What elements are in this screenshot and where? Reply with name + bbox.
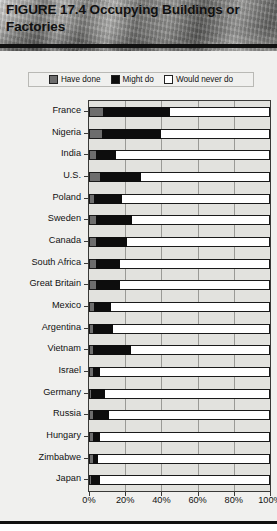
bar-row [89, 404, 270, 426]
x-axis-tick [89, 492, 90, 496]
y-axis-tick [84, 263, 88, 264]
bar-segment-might-do [93, 324, 113, 334]
stacked-bar [89, 389, 270, 399]
bar-segment-have-done [89, 129, 102, 139]
footer-fill [0, 524, 277, 531]
y-axis-label-vietnam: Vietnam [47, 338, 81, 360]
legend-swatch-icon [164, 75, 173, 84]
bar-segment-would-never-do [120, 259, 270, 269]
bar-segment-have-done [89, 150, 96, 160]
stacked-bar [89, 324, 270, 334]
bar-segment-might-do [96, 237, 127, 247]
bar-segment-have-done [89, 172, 100, 182]
y-axis-tick [84, 133, 88, 134]
y-axis-tick [84, 436, 88, 437]
y-axis-tick [84, 371, 88, 372]
stacked-bar [89, 150, 270, 160]
bar-segment-would-never-do [113, 324, 270, 334]
bar-row [89, 296, 270, 318]
bar-row [89, 318, 270, 340]
y-axis-label-mexico: Mexico [52, 295, 81, 317]
plot-area [88, 100, 271, 492]
bar-row [89, 383, 270, 405]
x-axis-tick-label: 20% [116, 495, 134, 505]
stacked-bar [89, 172, 270, 182]
bar-segment-would-never-do [100, 475, 270, 485]
legend-swatch-icon [111, 75, 120, 84]
stacked-bar [89, 454, 270, 464]
bar-row [89, 144, 270, 166]
bar-row [89, 448, 270, 470]
y-axis-label-france: France [52, 100, 81, 122]
bar-row [89, 166, 270, 188]
y-axis-tick [84, 328, 88, 329]
legend-label: Would never do [176, 75, 233, 84]
bar-segment-would-never-do [132, 215, 270, 225]
x-axis-tick-label: 60% [188, 495, 206, 505]
bar-segment-would-never-do [131, 345, 270, 355]
bar-rows [89, 101, 270, 491]
y-axis-tick [84, 154, 88, 155]
bar-row [89, 209, 270, 231]
bar-segment-might-do [96, 150, 116, 160]
bar-segment-might-do [94, 194, 121, 204]
bar-segment-would-never-do [98, 454, 270, 464]
y-axis-label-israel: Israel [59, 360, 81, 382]
bar-segment-might-do [91, 389, 105, 399]
stacked-bar [89, 107, 270, 117]
y-axis-label-zimbabwe: Zimbabwe [39, 447, 81, 469]
bar-segment-might-do [96, 259, 120, 269]
bar-row [89, 274, 270, 296]
x-axis-tick-label: 0% [82, 495, 95, 505]
bar-segment-have-done [89, 259, 96, 269]
bar-row [89, 426, 270, 448]
bar-segment-might-do [93, 410, 109, 420]
bar-segment-would-never-do [170, 107, 270, 117]
y-axis-tick [84, 111, 88, 112]
y-axis-tick [84, 458, 88, 459]
stacked-bar [89, 367, 270, 377]
bar-segment-have-done [89, 107, 103, 117]
bar-row [89, 231, 270, 253]
bar-segment-might-do [96, 280, 120, 290]
y-axis-tick [84, 241, 88, 242]
stacked-bar [89, 215, 270, 225]
bar-segment-would-never-do [111, 302, 270, 312]
x-axis-tick [125, 492, 126, 496]
stacked-bar [89, 259, 270, 269]
figure-title: FIGURE 17.4 Occupying Buildings or Facto… [6, 2, 264, 35]
y-axis-tick [84, 306, 88, 307]
stacked-bar [89, 280, 270, 290]
y-axis-label-south-africa: South Africa [31, 252, 81, 274]
bar-segment-have-done [89, 215, 96, 225]
bar-segment-might-do [94, 302, 110, 312]
y-axis-label-argentina: Argentina [42, 317, 81, 339]
bar-segment-might-do [93, 367, 100, 377]
bar-segment-would-never-do [122, 194, 270, 204]
stacked-bar [89, 237, 270, 247]
bar-row [89, 361, 270, 383]
y-axis-label-nigeria: Nigeria [52, 122, 81, 144]
stacked-bar [89, 475, 270, 485]
x-axis-tick [198, 492, 199, 496]
y-axis-label-india: India [61, 143, 81, 165]
legend-label: Have done [61, 75, 101, 84]
bar-segment-might-do [96, 215, 132, 225]
bar-row [89, 339, 270, 361]
y-axis-label-poland: Poland [52, 187, 81, 209]
y-axis-tick [84, 219, 88, 220]
bar-segment-would-never-do [100, 367, 270, 377]
bar-segment-might-do [91, 475, 100, 485]
y-axis-tick [84, 349, 88, 350]
legend-item-might-do: Might do [111, 75, 154, 84]
legend-label: Might do [123, 75, 154, 84]
y-axis-tick [84, 393, 88, 394]
y-axis-label-sweden: Sweden [48, 208, 81, 230]
stacked-bar [89, 302, 270, 312]
y-axis-label-u-s: U.S. [63, 165, 81, 187]
x-axis-labels: 0%20%40%60%80%100% [0, 495, 277, 511]
x-axis-tick [161, 492, 162, 496]
y-axis-tick [84, 176, 88, 177]
stacked-bar [89, 410, 270, 420]
bar-segment-have-done [89, 280, 96, 290]
